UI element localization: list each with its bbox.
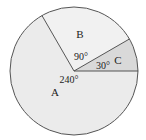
angle-b: 90°	[74, 51, 88, 62]
label-a: A	[51, 86, 59, 98]
label-b: B	[76, 28, 83, 40]
label-c: C	[114, 54, 121, 66]
pie-chart: B 90° 30° C 240° A	[0, 0, 146, 140]
angle-c: 30°	[96, 60, 110, 71]
angle-a: 240°	[60, 74, 79, 85]
